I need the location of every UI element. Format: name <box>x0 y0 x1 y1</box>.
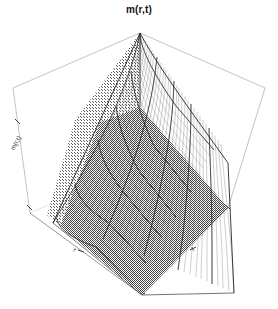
surface-plot-figure: m(r,t) <box>0 0 278 309</box>
surface-plot-canvas <box>0 0 278 309</box>
